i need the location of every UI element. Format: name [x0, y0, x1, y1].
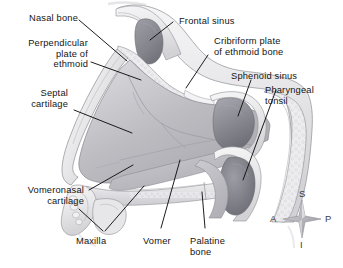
label-perpendicular-plate-of-ethmoid: Perpendicular plate of ethmoid — [4, 38, 88, 70]
label-sphenoid-sinus: Sphenoid sinus — [231, 71, 323, 82]
compass-label-superior: S — [299, 188, 305, 199]
label-vomeronasal-cartilage: Vomeronasal cartilage — [4, 185, 84, 206]
label-septal-cartilage: Septal cartilage — [6, 88, 68, 109]
label-cribriform-plate-of-ethmoid-bone: Cribriform plate of ethmoid bone — [214, 36, 324, 57]
anatomy-figure: Nasal bone Perpendicular plate of ethmoi… — [0, 0, 343, 268]
label-frontal-sinus: Frontal sinus — [179, 16, 257, 27]
compass-label-inferior: I — [300, 239, 303, 250]
compass-label-anterior: A — [270, 213, 276, 224]
label-maxilla: Maxilla — [76, 236, 132, 247]
label-vomer: Vomer — [143, 236, 189, 247]
label-pharyngeal-tonsil: Pharyngeal tonsil — [265, 85, 341, 106]
compass-label-posterior: P — [325, 213, 331, 224]
label-nasal-bone: Nasal bone — [6, 13, 78, 24]
label-palatine-bone: Palatine bone — [190, 236, 248, 257]
